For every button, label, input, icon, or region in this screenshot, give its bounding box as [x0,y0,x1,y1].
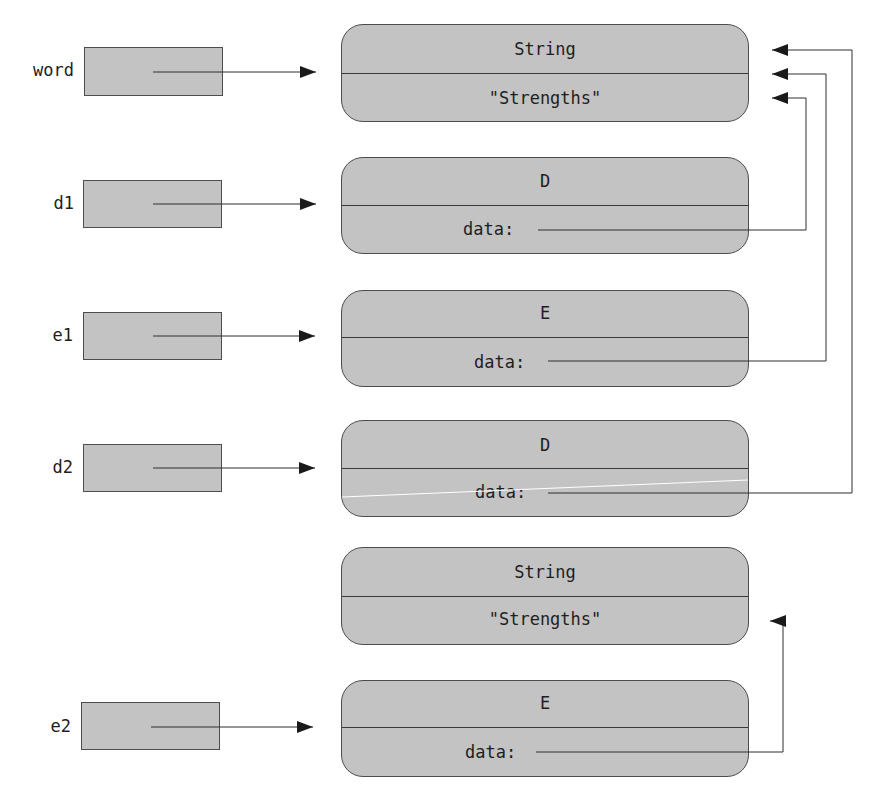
string-object-1: String "Strengths" [341,24,749,122]
string-value: "Strengths" [342,88,748,108]
object-type-label: D [342,171,748,191]
object-divider [342,73,748,74]
object-type-label: E [342,303,748,323]
object-divider [342,596,748,597]
variable-label-e2: e2 [11,716,71,736]
data-field-label: data: [465,742,516,762]
object-divider [342,468,748,469]
data-field-label: data: [474,352,525,372]
reference-diagram: word d1 e1 d2 e2 String "Strengths" D da… [0,0,875,798]
data-field-label: data: [475,482,526,502]
variable-label-e1: e1 [13,325,73,345]
d-object-1: D data: [341,157,749,254]
variable-box-d1 [83,180,222,228]
object-type-label: D [342,435,748,455]
e-object-2: E data: [341,680,749,777]
variable-box-d2 [83,444,222,492]
string-value: "Strengths" [342,609,748,629]
data-field-label: data: [463,219,514,239]
e-object-1: E data: [341,290,749,387]
object-type-label: String [342,39,748,59]
variable-label-word: word [14,60,74,80]
object-divider [342,337,748,338]
string-object-2: String "Strengths" [341,547,749,645]
object-type-label: E [342,693,748,713]
variable-label-d2: d2 [13,457,73,477]
variable-box-word [84,47,223,96]
object-type-label: String [342,562,748,582]
variable-box-e2 [81,702,220,750]
d-object-2: D data: [341,420,749,517]
variable-box-e1 [83,312,222,360]
object-divider [342,727,748,728]
variable-label-d1: d1 [14,193,74,213]
object-divider [342,205,748,206]
